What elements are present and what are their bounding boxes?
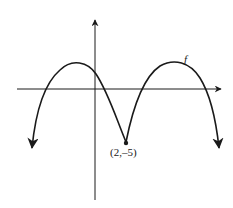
function-graph [0,0,233,208]
cusp-point-label: (2,–5) [110,146,137,158]
curve-left-arc [32,63,126,148]
curve-label-f: f [184,53,187,65]
cusp-point [124,141,128,145]
curve-right-arc [126,62,219,148]
